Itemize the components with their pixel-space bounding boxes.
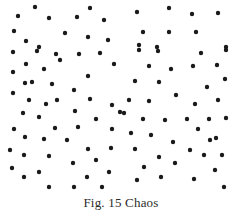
scatter-point (147, 64, 151, 68)
scatter-point (147, 99, 151, 103)
scatter-point (30, 80, 34, 84)
scatter-point (224, 48, 228, 52)
scatter-point (23, 135, 27, 139)
scatter-point (21, 111, 25, 115)
scatter-point (110, 127, 114, 131)
scatter-point (127, 98, 131, 102)
scatter-point (85, 175, 89, 179)
scatter-point (222, 185, 226, 189)
scatter-point (205, 85, 209, 89)
scatter-point (8, 148, 12, 152)
scatter-point (10, 166, 14, 170)
scatter-point (216, 11, 220, 15)
scatter-point (199, 51, 203, 55)
scatter-point (135, 178, 139, 182)
scatter-point (157, 80, 161, 84)
scatter-point (50, 82, 54, 86)
scatter-point (47, 185, 51, 189)
scatter-point (142, 165, 146, 169)
scatter-point (27, 98, 31, 102)
scatter-point (185, 117, 189, 121)
scatter-point (35, 49, 39, 53)
scatter-point (33, 5, 37, 9)
scatter-point (42, 137, 46, 141)
scatter-point (22, 153, 26, 157)
scatter-point (171, 140, 175, 144)
scatter-point (65, 138, 69, 142)
scatter-point (58, 58, 62, 62)
scatter-point (133, 79, 137, 83)
scatter-point (194, 30, 198, 34)
scatter-canvas (0, 0, 242, 196)
scatter-point (208, 138, 212, 142)
scatter-point (54, 52, 58, 56)
scatter-point (155, 45, 159, 49)
scatter-point (53, 126, 57, 130)
scatter-point (75, 15, 79, 19)
scatter-point (192, 177, 196, 181)
scatter-point (156, 49, 160, 53)
scatter-point (22, 175, 26, 179)
scatter-point (94, 117, 98, 121)
scatter-point (76, 125, 80, 129)
scatter-point (167, 30, 171, 34)
scatter-point (44, 102, 48, 106)
scatter-point (141, 30, 145, 34)
scatter-point (110, 103, 114, 107)
scatter-point (216, 98, 220, 102)
scatter-point (167, 6, 171, 10)
scatter-point (141, 117, 145, 121)
scatter-point (100, 185, 104, 189)
scatter-point (16, 14, 20, 18)
scatter-point (11, 50, 15, 54)
scatter-point (133, 147, 137, 151)
scatter-point (88, 6, 92, 10)
scatter-point (86, 147, 90, 151)
scatter-point (193, 102, 197, 106)
scatter-point (73, 109, 77, 113)
scatter-point (47, 154, 51, 158)
scatter-point (86, 35, 90, 39)
scatter-point (174, 93, 178, 97)
scatter-point (47, 16, 51, 20)
scatter-point (191, 64, 195, 68)
scatter-point (190, 12, 194, 16)
scatter-point (159, 175, 163, 179)
scatter-point (118, 110, 122, 114)
figure-container: Fig. 15 Chaos (0, 0, 242, 218)
scatter-point (88, 97, 92, 101)
scatter-point (37, 170, 41, 174)
scatter-point (109, 146, 113, 150)
scatter-point (207, 117, 211, 121)
scatter-point (129, 131, 133, 135)
scatter-point (220, 153, 224, 157)
scatter-point (86, 74, 90, 78)
scatter-point (169, 67, 173, 71)
scatter-point (23, 81, 27, 85)
scatter-point (163, 118, 167, 122)
scatter-point (215, 63, 219, 67)
scatter-point (107, 170, 111, 174)
figure-caption: Fig. 15 Chaos (0, 194, 242, 211)
scatter-point (135, 10, 139, 14)
scatter-point (112, 62, 116, 66)
scatter-point (55, 98, 59, 102)
scatter-point (213, 168, 217, 172)
scatter-point (98, 51, 102, 55)
scatter-point (102, 18, 106, 22)
scatter-point (72, 185, 76, 189)
scatter-point (37, 115, 41, 119)
scatter-point (137, 48, 141, 52)
scatter-point (214, 136, 218, 140)
scatter-point (188, 148, 192, 152)
scatter-point (149, 133, 153, 137)
scatter-point (122, 111, 126, 115)
scatter-point (24, 62, 28, 66)
scatter-point (223, 77, 227, 81)
scatter-point (196, 127, 200, 131)
scatter-point (72, 88, 76, 92)
scatter-point (11, 91, 15, 95)
chaos-scatter-plot (0, 0, 242, 196)
scatter-point (173, 161, 177, 165)
scatter-point (137, 43, 141, 47)
